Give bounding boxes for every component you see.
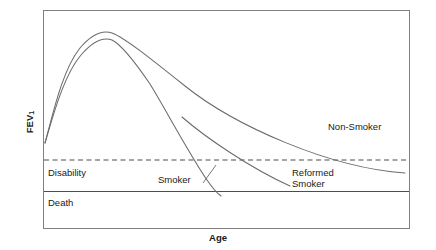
- reformed-smoker-label-line2: Smoker: [292, 178, 334, 189]
- y-axis-title-text: FEV1: [24, 111, 35, 133]
- reformed-smoker-label-line1: Reformed: [292, 167, 334, 178]
- chart-figure: FEV1 Age Disability Death Smoker Non-Smo…: [0, 0, 436, 250]
- disability-band-label: Disability: [48, 167, 86, 178]
- curve-non-smoker: [45, 32, 405, 173]
- curve-reformed-smoker: [182, 117, 290, 186]
- plot-frame: [44, 11, 410, 229]
- y-axis-title-main: FEV: [24, 115, 35, 133]
- smoker-label-leader-line: [203, 165, 216, 183]
- death-band-label: Death: [48, 197, 73, 208]
- reformed-smoker-series-label: Reformed Smoker: [292, 167, 334, 189]
- smoker-series-label: Smoker: [158, 174, 191, 185]
- y-axis-title-subscript: 1: [28, 111, 35, 115]
- x-axis-title: Age: [0, 232, 436, 243]
- non-smoker-series-label: Non-Smoker: [328, 121, 381, 132]
- y-axis-title: FEV1: [22, 92, 36, 152]
